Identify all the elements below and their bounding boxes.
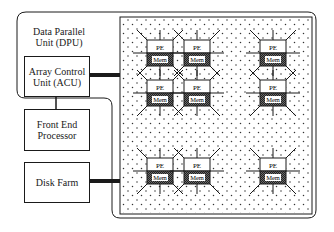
acu-box: Array Control Unit (ACU) [24,56,90,97]
front-end-processor-box: Front End Processor [24,109,90,151]
mem-label: Mem [190,56,204,63]
pe-label: PE [269,84,277,92]
mem-label: Mem [266,96,280,103]
mem-label: Mem [153,96,167,103]
mem-label: Mem [153,56,167,63]
pe-label: PE [156,162,164,170]
mem-label: Mem [190,174,204,181]
mem-label: Mem [266,56,280,63]
pe-label: PE [269,44,277,52]
pe-label: PE [269,162,277,170]
pe-label: PE [156,44,164,52]
mem-label: Mem [266,174,280,181]
pe-label: PE [193,44,201,52]
disk-farm-box: Disk Farm [24,162,90,203]
mem-label: Mem [190,96,204,103]
pe-label: PE [156,84,164,92]
dpu-label: Data Parallel Unit (DPU) [24,26,94,48]
mem-label: Mem [153,174,167,181]
pe-label: PE [193,84,201,92]
dpu-architecture-diagram: PEMemPEMemPEMemPEMemPEMemPEMemPEMemPEMem… [0,0,334,232]
pe-label: PE [193,162,201,170]
front-end-processor-label: Front End Processor [37,119,77,141]
acu-label: Array Control Unit (ACU) [29,66,85,88]
disk-farm-label: Disk Farm [36,177,79,188]
